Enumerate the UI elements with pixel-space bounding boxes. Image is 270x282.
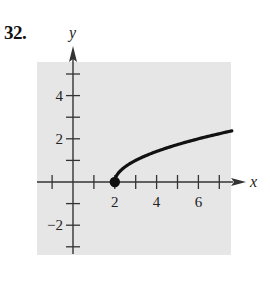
start-point-marker xyxy=(110,177,120,187)
x-tick-label: 4 xyxy=(153,194,161,210)
x-axis-label: x xyxy=(249,173,257,190)
y-tick-label: −2 xyxy=(47,217,63,233)
plot-background xyxy=(37,62,231,255)
x-axis-arrow-icon xyxy=(231,178,246,186)
y-axis-label: y xyxy=(67,24,77,42)
x-tick-label: 2 xyxy=(111,194,119,210)
y-tick-label: 4 xyxy=(56,88,64,104)
x-tick-label: 6 xyxy=(195,194,203,210)
y-tick-label: 2 xyxy=(56,131,64,147)
graph: 24642−2 x y xyxy=(0,0,270,282)
